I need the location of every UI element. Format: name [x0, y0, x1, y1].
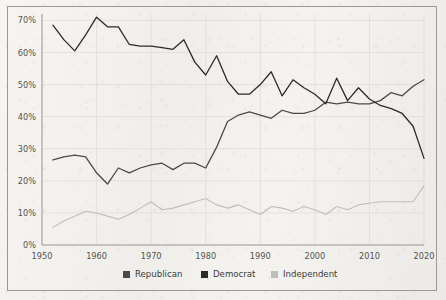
legend-label-independent: Independent	[283, 269, 338, 279]
legend-swatch-democrat	[201, 271, 208, 278]
y-axis-tick-label: 50%	[18, 80, 36, 90]
x-axis-tick-label: 1990	[250, 251, 271, 261]
y-axis-tick-label: 70%	[18, 15, 36, 25]
y-axis-tick-label: 60%	[18, 48, 36, 58]
chart-canvas: 0%10%20%30%40%50%60%70%19501960197019801…	[0, 0, 446, 300]
y-axis-tick-label: 40%	[18, 112, 36, 122]
x-axis-tick-label: 1950	[32, 251, 53, 261]
legend-label-democrat: Democrat	[213, 269, 256, 279]
x-axis-tick-label: 1970	[141, 251, 162, 261]
x-axis-tick-label: 1960	[86, 251, 107, 261]
legend-label-republican: Republican	[135, 269, 182, 279]
y-axis-tick-label: 30%	[18, 144, 36, 154]
series-line-democrat	[53, 17, 424, 158]
legend-swatch-independent	[271, 271, 278, 278]
y-axis-tick-label: 0%	[23, 240, 36, 250]
x-axis-tick-label: 2000	[304, 251, 325, 261]
legend-item-republican[interactable]: Republican	[123, 269, 182, 279]
legend-item-democrat[interactable]: Democrat	[201, 269, 256, 279]
x-axis-tick-label: 2010	[359, 251, 380, 261]
series-line-independent	[53, 186, 424, 228]
line-chart: 0%10%20%30%40%50%60%70%19501960197019801…	[0, 0, 446, 300]
legend-swatch-republican	[123, 271, 130, 278]
x-axis-tick-label: 2020	[414, 251, 435, 261]
legend-item-independent[interactable]: Independent	[271, 269, 338, 279]
y-axis-tick-label: 10%	[18, 208, 36, 218]
x-axis-tick-label: 1980	[195, 251, 216, 261]
y-axis-tick-label: 20%	[18, 176, 36, 186]
series-line-republican	[53, 80, 424, 184]
